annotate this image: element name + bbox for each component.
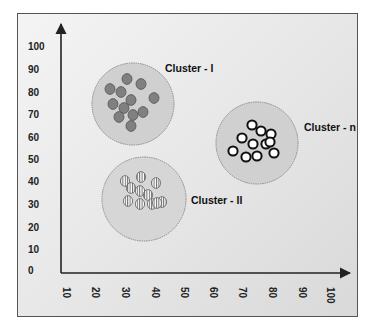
y-tick: 40 [28, 176, 40, 187]
y-tick: 90 [28, 64, 40, 75]
y-tick: 0 [28, 265, 34, 276]
y-tick: 60 [28, 132, 40, 143]
x-tick: 50 [179, 287, 190, 299]
cluster-n-label: Cluster - n [304, 121, 356, 133]
x-tick-labels: 10 20 30 40 50 60 70 80 90 100 [61, 287, 336, 304]
y-tick: 10 [28, 244, 40, 255]
y-tick-labels: 100 90 80 70 60 50 40 30 20 10 0 [28, 41, 45, 276]
cluster-1-label: Cluster - I [165, 62, 214, 74]
x-tick: 100 [325, 287, 336, 304]
x-tick: 70 [237, 287, 248, 299]
y-tick: 70 [28, 109, 40, 120]
cluster-2-label: Cluster - II [191, 194, 242, 206]
x-tick: 30 [120, 287, 131, 299]
x-tick: 40 [150, 287, 161, 299]
y-tick: 50 [28, 154, 40, 165]
cluster-2: Cluster - II [102, 157, 242, 241]
x-tick: 90 [297, 287, 308, 299]
x-tick: 60 [208, 287, 219, 299]
y-tick: 80 [28, 87, 40, 98]
y-tick: 100 [28, 41, 45, 52]
cluster-2-boundary [102, 157, 186, 241]
cluster-1: Cluster - I [92, 62, 214, 145]
y-tick: 30 [28, 199, 40, 210]
y-tick: 20 [28, 222, 40, 233]
cluster-diagram: 100 90 80 70 60 50 40 30 20 10 0 10 20 3… [0, 0, 374, 333]
x-tick: 20 [90, 287, 101, 299]
cluster-n: Cluster - n [216, 102, 356, 184]
x-tick: 10 [61, 287, 72, 299]
x-tick: 80 [267, 287, 278, 299]
